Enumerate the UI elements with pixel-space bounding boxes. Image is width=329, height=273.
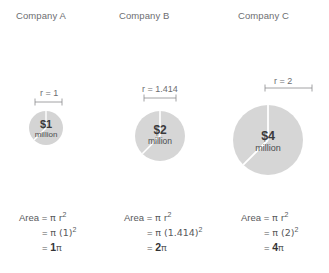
formula-line-1-company-c: Area = π r2: [241, 210, 298, 225]
area-formula-company-c: Area = π r2 = π (2)2 = 4π: [241, 210, 298, 255]
formula-line-3-company-b: = 2π: [124, 240, 202, 255]
formula-exp-1-company-a: 2: [63, 211, 67, 218]
formula-eq-1-company-b: =: [147, 212, 153, 223]
formula-eq-3-company-b: =: [147, 242, 153, 253]
formula-expr-2-company-b: π (1.414): [155, 227, 198, 238]
formula-expr-2-company-a: π (1): [50, 227, 72, 238]
radius-label-company-a: r = 1: [38, 88, 60, 98]
radius-rule-company-a: [35, 99, 62, 106]
pie-company-a: [29, 111, 63, 145]
formula-line-3-company-a: = 1π: [19, 240, 76, 255]
formula-pi-3-company-c: π: [278, 242, 284, 253]
formula-expr-1-company-b: π r: [155, 212, 168, 223]
formula-exp-2-company-c: 2: [294, 226, 298, 233]
formula-eq-1-company-a: =: [42, 212, 48, 223]
formula-pi-3-company-b: π: [161, 242, 167, 253]
circle-area-comparison-figure: Company A Company B Company C: [0, 0, 329, 273]
proportional-circles-group: [0, 0, 329, 200]
formula-eq-3-company-c: =: [264, 242, 270, 253]
formula-eq-2-company-b: =: [147, 227, 153, 238]
area-formula-company-a: Area = π r2 = π (1)2 = 1π: [19, 210, 76, 255]
radius-label-company-c: r = 2: [272, 76, 294, 86]
formula-pi-3-company-a: π: [56, 242, 62, 253]
formula-line-1-company-a: Area = π r2: [19, 210, 76, 225]
formula-line-3-company-c: = 4π: [241, 240, 298, 255]
radius-rule-company-b: [144, 95, 176, 102]
formula-line-2-company-b: = π (1.414)2: [124, 225, 202, 240]
formula-expr-2-company-c: π (2): [272, 227, 294, 238]
pie-company-b: [135, 111, 185, 161]
formula-eq-1-company-c: =: [264, 212, 270, 223]
formula-expr-1-company-a: π r: [50, 212, 63, 223]
formula-exp-2-company-b: 2: [199, 226, 203, 233]
formula-label-company-c: Area: [241, 212, 261, 223]
formula-line-2-company-a: = π (1)2: [19, 225, 76, 240]
formula-line-2-company-c: = π (2)2: [241, 225, 298, 240]
radius-label-company-b: r = 1.414: [140, 84, 180, 94]
formula-exp-1-company-c: 2: [285, 211, 289, 218]
formula-label-company-b: Area: [124, 212, 144, 223]
formula-label-company-a: Area: [19, 212, 39, 223]
formula-eq-2-company-c: =: [264, 227, 270, 238]
pie-company-c: [233, 105, 303, 175]
formula-eq-2-company-a: =: [42, 227, 48, 238]
formula-expr-1-company-c: π r: [272, 212, 285, 223]
formula-exp-2-company-a: 2: [72, 226, 76, 233]
formula-eq-3-company-a: =: [42, 242, 48, 253]
area-formula-company-b: Area = π r2 = π (1.414)2 = 2π: [124, 210, 202, 255]
formula-line-1-company-b: Area = π r2: [124, 210, 202, 225]
formula-exp-1-company-b: 2: [168, 211, 172, 218]
